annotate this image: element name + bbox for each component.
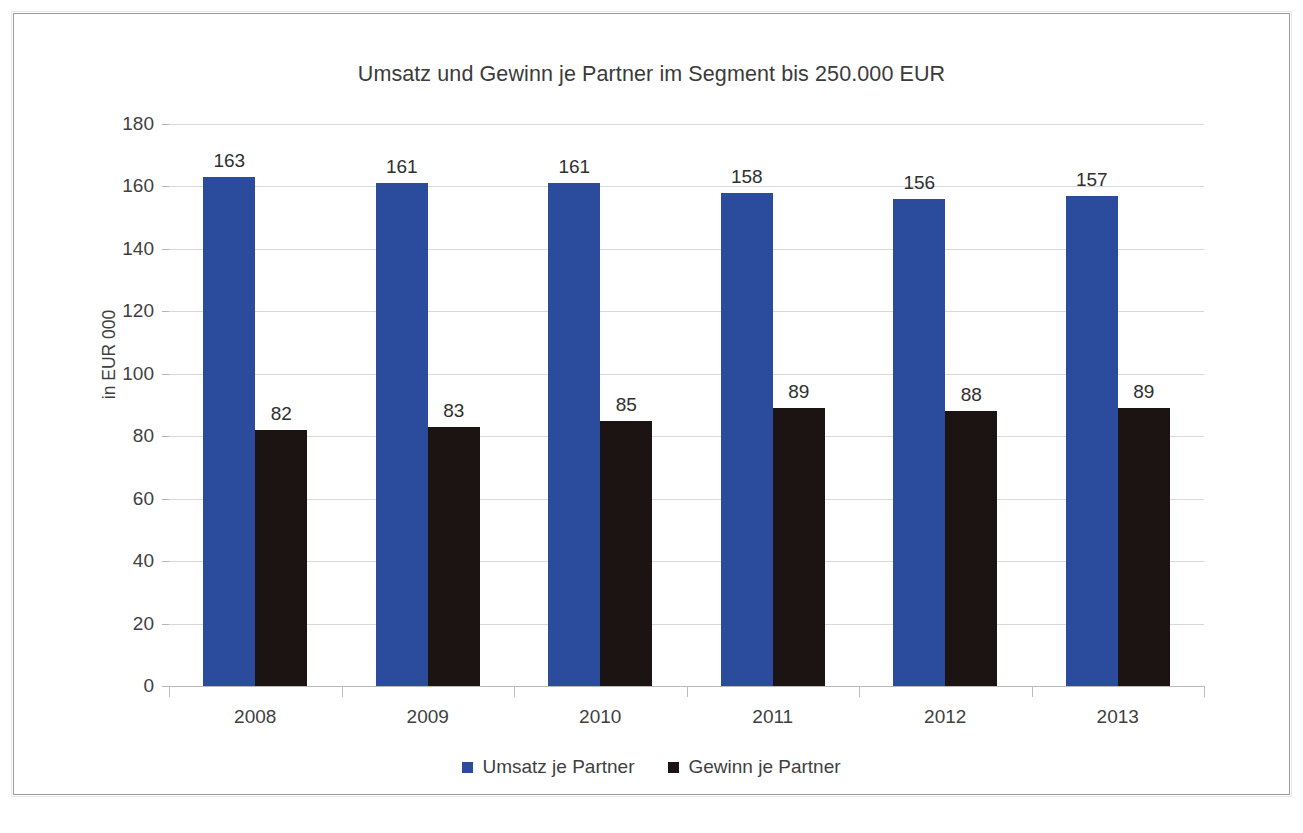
bar-value-label: 89 [1133, 381, 1154, 408]
bar-gewinn-2011[interactable]: 89 [773, 408, 825, 686]
y-tick-label-20: 20 [102, 613, 154, 635]
bar-umsatz-2011[interactable]: 158 [721, 193, 773, 686]
bar-value-label: 83 [443, 400, 464, 427]
x-category-label-2013: 2013 [1097, 706, 1139, 728]
x-tick-mark-2009 [514, 686, 515, 697]
y-tick-label-0: 0 [102, 675, 154, 697]
bar-umsatz-2008[interactable]: 163 [203, 177, 255, 686]
bar-value-label: 82 [271, 403, 292, 430]
gridline-180 [169, 124, 1204, 125]
y-tick-label-120: 120 [102, 300, 154, 322]
x-tick-mark-2010 [687, 686, 688, 697]
x-tick-mark-2011 [859, 686, 860, 697]
x-category-label-2011: 2011 [752, 706, 793, 728]
y-tick-mark-100 [162, 374, 169, 375]
chart-frame: Umsatz und Gewinn je Partner im Segment … [13, 13, 1290, 795]
bar-value-label: 156 [903, 172, 935, 199]
bar-value-label: 161 [558, 156, 590, 183]
y-tick-mark-120 [162, 311, 169, 312]
legend-item[interactable]: Umsatz je Partner [462, 756, 634, 778]
bar-umsatz-2010[interactable]: 161 [548, 183, 600, 686]
chart-page: Umsatz und Gewinn je Partner im Segment … [0, 0, 1303, 833]
y-tick-mark-0 [162, 686, 169, 687]
y-tick-mark-40 [162, 561, 169, 562]
bar-group: 15889 [721, 124, 825, 686]
y-axis-tick-labels: 020406080100120140160180 [102, 124, 154, 686]
plot-area: 163821618316185158891568815789 [169, 124, 1204, 686]
legend-item[interactable]: Gewinn je Partner [668, 756, 840, 778]
chart-legend: Umsatz je PartnerGewinn je Partner [14, 756, 1289, 778]
bar-group: 16382 [203, 124, 307, 686]
y-tick-label-140: 140 [102, 238, 154, 260]
y-tick-label-160: 160 [102, 175, 154, 197]
gridline-160 [169, 186, 1204, 187]
gridline-140 [169, 249, 1204, 250]
legend-label: Gewinn je Partner [688, 756, 840, 778]
y-tick-mark-80 [162, 436, 169, 437]
legend-label: Umsatz je Partner [482, 756, 634, 778]
gridline-100 [169, 374, 1204, 375]
bar-value-label: 158 [731, 166, 763, 193]
y-tick-label-40: 40 [102, 550, 154, 572]
bar-value-label: 89 [788, 381, 809, 408]
bar-gewinn-2012[interactable]: 88 [945, 411, 997, 686]
bar-group: 16183 [376, 124, 480, 686]
bar-group: 15688 [893, 124, 997, 686]
bar-umsatz-2012[interactable]: 156 [893, 199, 945, 686]
bar-value-label: 157 [1076, 169, 1108, 196]
y-tick-mark-140 [162, 249, 169, 250]
bar-gewinn-2013[interactable]: 89 [1118, 408, 1170, 686]
bar-group: 15789 [1066, 124, 1170, 686]
x-tick-mark-start [169, 686, 170, 697]
x-category-label-2010: 2010 [579, 706, 621, 728]
bar-group: 16185 [548, 124, 652, 686]
gridline-60 [169, 499, 1204, 500]
y-tick-label-60: 60 [102, 488, 154, 510]
bar-value-label: 85 [616, 394, 637, 421]
y-tick-mark-160 [162, 186, 169, 187]
gridline-80 [169, 436, 1204, 437]
y-tick-mark-60 [162, 499, 169, 500]
legend-swatch-icon [668, 762, 679, 773]
x-tick-mark-2008 [342, 686, 343, 697]
legend-swatch-icon [462, 762, 473, 773]
x-tick-mark-2013 [1204, 686, 1205, 697]
bar-value-label: 88 [961, 384, 982, 411]
bar-umsatz-2013[interactable]: 157 [1066, 196, 1118, 686]
chart-title: Umsatz und Gewinn je Partner im Segment … [14, 62, 1289, 87]
gridline-40 [169, 561, 1204, 562]
x-tick-mark-2012 [1032, 686, 1033, 697]
x-category-label-2012: 2012 [924, 706, 966, 728]
y-tick-mark-180 [162, 124, 169, 125]
bar-gewinn-2010[interactable]: 85 [600, 421, 652, 686]
x-category-label-2009: 2009 [407, 706, 449, 728]
bar-umsatz-2009[interactable]: 161 [376, 183, 428, 686]
y-tick-label-100: 100 [102, 363, 154, 385]
x-category-label-2008: 2008 [234, 706, 276, 728]
y-tick-mark-20 [162, 624, 169, 625]
y-tick-label-180: 180 [102, 113, 154, 135]
gridline-120 [169, 311, 1204, 312]
bar-value-label: 163 [213, 150, 245, 177]
bar-gewinn-2008[interactable]: 82 [255, 430, 307, 686]
gridline-20 [169, 624, 1204, 625]
bar-gewinn-2009[interactable]: 83 [428, 427, 480, 686]
bar-value-label: 161 [386, 156, 418, 183]
y-tick-label-80: 80 [102, 425, 154, 447]
